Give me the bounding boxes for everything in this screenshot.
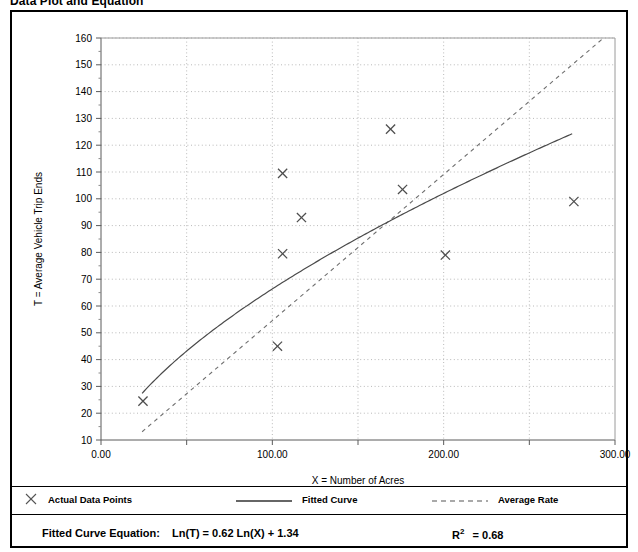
svg-text:90: 90 xyxy=(81,220,93,231)
divider-equation-top xyxy=(12,514,626,515)
data-point xyxy=(441,250,450,259)
svg-text:140: 140 xyxy=(75,86,92,97)
legend-marker-solid-line-icon xyxy=(236,496,292,506)
svg-text:30: 30 xyxy=(81,381,93,392)
svg-text:120: 120 xyxy=(75,140,92,151)
data-point xyxy=(138,397,147,406)
svg-text:70: 70 xyxy=(81,274,93,285)
chart-page: Data Plot and Equation 10203040506070809… xyxy=(0,0,638,552)
svg-text:100.00: 100.00 xyxy=(257,449,288,460)
svg-text:130: 130 xyxy=(75,113,92,124)
data-point xyxy=(398,185,407,194)
legend-label-actual-data-points: Actual Data Points xyxy=(48,494,132,505)
legend-marker-dashed-line-icon xyxy=(432,496,488,506)
svg-text:0.00: 0.00 xyxy=(91,449,111,460)
r2-label: R xyxy=(452,529,460,541)
svg-text:100: 100 xyxy=(75,193,92,204)
svg-text:40: 40 xyxy=(81,354,93,365)
legend-label-fitted-curve: Fitted Curve xyxy=(302,494,357,505)
equation-label: Fitted Curve Equation: xyxy=(42,527,160,539)
y-axis-title: T = Average Vehicle Trip Ends xyxy=(33,172,44,306)
r2-value: = 0.68 xyxy=(473,529,504,541)
svg-text:200.00: 200.00 xyxy=(428,449,459,460)
r-squared: R2 = 0.68 xyxy=(452,527,503,541)
equation-value: Ln(T) = 0.62 Ln(X) + 1.34 xyxy=(172,527,299,539)
data-point xyxy=(278,169,287,178)
axes xyxy=(101,38,615,440)
chart-legend: Actual Data Points Fitted Curve Average … xyxy=(14,492,624,510)
plot-area: 102030405060708090100110120130140150160 … xyxy=(0,0,638,552)
gridlines xyxy=(101,38,615,440)
svg-text:50: 50 xyxy=(81,327,93,338)
chart-svg: 102030405060708090100110120130140150160 … xyxy=(0,0,638,552)
svg-text:110: 110 xyxy=(76,167,92,178)
series-fitted-curve xyxy=(142,134,572,394)
svg-text:300.00: 300.00 xyxy=(600,449,631,460)
svg-text:160: 160 xyxy=(75,33,92,44)
axis-ticks xyxy=(96,38,615,445)
svg-text:20: 20 xyxy=(81,408,93,419)
y-axis-tick-labels: 102030405060708090100110120130140150160 xyxy=(75,33,92,446)
svg-text:10: 10 xyxy=(81,435,93,446)
data-point xyxy=(386,125,395,134)
legend-marker-x-icon xyxy=(24,492,38,506)
fitted-curve-equation: Fitted Curve Equation: Ln(T) = 0.62 Ln(X… xyxy=(42,527,299,539)
data-point xyxy=(569,197,578,206)
data-point xyxy=(297,213,306,222)
divider-legend-top xyxy=(12,486,626,487)
r2-exponent: 2 xyxy=(460,527,464,536)
svg-text:80: 80 xyxy=(81,247,93,258)
data-point xyxy=(273,342,282,351)
equation-row: Fitted Curve Equation: Ln(T) = 0.62 Ln(X… xyxy=(14,524,624,546)
data-point xyxy=(278,249,287,258)
x-axis-tick-labels: 0.00100.00200.00300.00 xyxy=(91,449,630,460)
svg-text:60: 60 xyxy=(81,301,93,312)
x-axis-title: X = Number of Acres xyxy=(312,475,405,486)
series-average-rate xyxy=(142,38,603,432)
legend-label-average-rate: Average Rate xyxy=(498,494,558,505)
svg-text:150: 150 xyxy=(75,59,92,70)
